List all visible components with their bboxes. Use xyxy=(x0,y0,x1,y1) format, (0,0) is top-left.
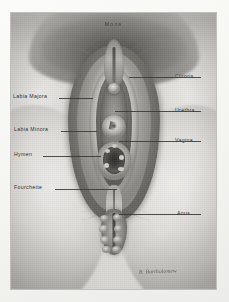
vulva-group xyxy=(66,43,162,227)
anal-fold xyxy=(100,236,110,244)
plate-title-mons: Mons xyxy=(105,21,123,27)
leader-labia-minora xyxy=(61,131,97,132)
label-anus: Anus xyxy=(177,211,190,216)
label-fourchette: Fourchette xyxy=(14,185,42,190)
hymen-notch xyxy=(104,163,109,168)
anal-fold xyxy=(112,246,121,253)
urethral-opening-detail xyxy=(108,121,118,131)
label-clitoris: Clitoris xyxy=(175,74,194,79)
glans-clitoris xyxy=(108,83,120,94)
anus-group xyxy=(97,209,131,257)
label-labia-minora: Labia Minora xyxy=(14,127,48,132)
anal-fold xyxy=(102,246,111,253)
anatomical-plate: Mons Clitoris Urethra Vagina Anus Labia … xyxy=(0,0,229,302)
leader-fourchette xyxy=(55,189,117,190)
hymen-notch xyxy=(112,144,117,148)
hymen-notch xyxy=(118,167,124,171)
prepuce-cleft xyxy=(112,47,115,83)
leader-labia-majora xyxy=(59,98,93,99)
artist-signature: B. Bartholomew xyxy=(139,268,177,275)
label-labia-majora: Labia Majora xyxy=(13,94,47,99)
anal-fold xyxy=(113,214,122,221)
anal-fold xyxy=(114,225,123,233)
leader-hymen xyxy=(43,156,101,157)
label-hymen: Hymen xyxy=(14,152,32,157)
illustration-frame: Mons Clitoris Urethra Vagina Anus Labia … xyxy=(11,13,216,289)
anal-fold xyxy=(99,225,109,233)
label-urethra: Urethra xyxy=(175,108,195,113)
anal-fold xyxy=(113,236,123,244)
hymen-notch xyxy=(119,155,124,160)
label-vagina: Vagina xyxy=(175,138,193,143)
hymen-notch xyxy=(105,149,110,153)
anal-fold xyxy=(100,215,109,222)
